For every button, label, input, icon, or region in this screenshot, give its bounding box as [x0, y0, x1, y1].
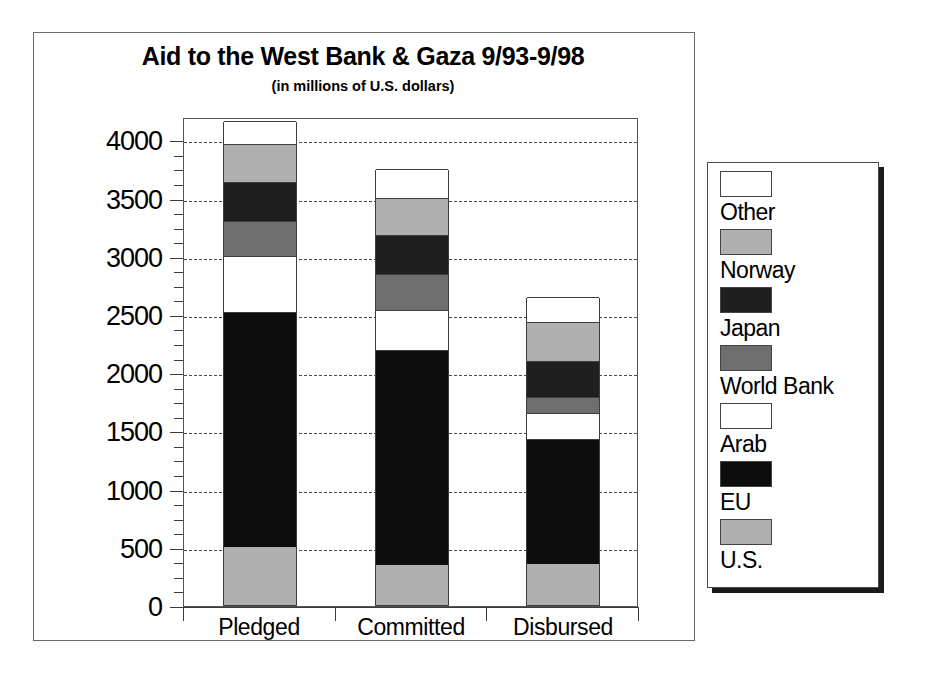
bar-segment: [376, 350, 448, 565]
legend-swatch: [720, 403, 772, 429]
y-axis: [170, 118, 183, 608]
chart-legend: OtherNorwayJapanWorld BankArabEUU.S.: [707, 162, 879, 588]
y-tick-minor: [174, 592, 183, 593]
y-tick-minor: [174, 243, 183, 244]
bar-segment: [527, 564, 599, 605]
bar-segment: [376, 274, 448, 310]
plot-area: [183, 118, 638, 607]
y-tick-label: 4000: [106, 128, 162, 155]
y-tick-minor: [174, 272, 183, 273]
bar-segment: [376, 235, 448, 274]
x-tick-label: Committed: [335, 614, 487, 654]
y-tick-minor: [174, 156, 183, 157]
y-tick-minor: [174, 287, 183, 288]
bar-segment: [527, 439, 599, 564]
x-tick-label: Disbursed: [487, 614, 639, 654]
y-tick-label: 3000: [106, 244, 162, 271]
y-tick-minor: [174, 170, 183, 171]
x-tick-label: Pledged: [183, 614, 335, 654]
chart-title: Aid to the West Bank & Gaza 9/93-9/98: [33, 42, 693, 71]
chart-page: Aid to the West Bank & Gaza 9/93-9/98 (i…: [0, 0, 927, 693]
y-tick-minor: [174, 214, 183, 215]
legend-label: EU: [720, 487, 870, 517]
bar-segment: [376, 169, 448, 198]
bar-segment: [527, 322, 599, 360]
bar-segment: [376, 310, 448, 350]
legend-swatch: [720, 345, 772, 371]
y-tick-minor: [174, 301, 183, 302]
bar-segment: [527, 397, 599, 413]
bar-pledged: [223, 122, 297, 606]
legend-swatch: [720, 519, 772, 545]
bar-segment: [376, 565, 448, 605]
y-tick-major: [170, 258, 183, 259]
y-tick-minor: [174, 534, 183, 535]
y-tick-major: [170, 374, 183, 375]
legend-label: Norway: [720, 255, 870, 285]
y-tick-minor: [174, 229, 183, 230]
legend-label: Japan: [720, 313, 870, 343]
y-tick-minor: [174, 505, 183, 506]
bar-segment: [527, 361, 599, 397]
bar-segment: [224, 312, 296, 547]
y-tick-major: [170, 607, 183, 608]
y-tick-label: 3500: [106, 186, 162, 213]
bar-segment: [224, 256, 296, 312]
y-tick-minor: [174, 403, 183, 404]
bar-segment: [224, 547, 296, 605]
y-tick-major: [170, 549, 183, 550]
y-tick-minor: [174, 563, 183, 564]
y-tick-label: 500: [120, 535, 162, 562]
y-tick-minor: [174, 389, 183, 390]
y-tick-major: [170, 200, 183, 201]
bar-segment: [527, 297, 599, 322]
y-tick-minor: [174, 447, 183, 448]
legend-item[interactable]: World Bank: [720, 345, 870, 401]
y-tick-label: 0: [148, 594, 162, 621]
y-tick-major: [170, 316, 183, 317]
y-tick-minor: [174, 345, 183, 346]
y-tick-minor: [174, 418, 183, 419]
y-tick-minor: [174, 578, 183, 579]
y-tick-minor: [174, 461, 183, 462]
legend-item[interactable]: Norway: [720, 229, 870, 285]
bar-segment: [376, 198, 448, 236]
bar-segment: [224, 144, 296, 182]
legend-swatch: [720, 171, 772, 197]
legend-label: U.S.: [720, 545, 870, 575]
y-tick-label: 2500: [106, 302, 162, 329]
chart-subtitle: (in millions of U.S. dollars): [33, 78, 693, 94]
y-tick-major: [170, 141, 183, 142]
y-tick-major: [170, 491, 183, 492]
legend-item[interactable]: Japan: [720, 287, 870, 343]
legend-label: World Bank: [720, 371, 870, 401]
y-tick-minor: [174, 520, 183, 521]
legend-swatch: [720, 229, 772, 255]
y-axis-labels: 05001000150020002500300035004000: [40, 118, 162, 608]
bar-committed: [375, 170, 449, 606]
legend-item[interactable]: Other: [720, 171, 870, 227]
y-tick-minor: [174, 330, 183, 331]
legend-swatch: [720, 461, 772, 487]
legend-item[interactable]: U.S.: [720, 519, 870, 575]
y-tick-major: [170, 432, 183, 433]
bar-segment: [224, 221, 296, 256]
bar-segment: [224, 182, 296, 220]
y-tick-minor: [174, 185, 183, 186]
legend-label: Other: [720, 197, 870, 227]
legend-item[interactable]: EU: [720, 461, 870, 517]
bar-disbursed: [526, 298, 600, 606]
bar-segment: [527, 413, 599, 439]
y-tick-label: 1500: [106, 419, 162, 446]
y-tick-label: 1000: [106, 477, 162, 504]
legend-label: Arab: [720, 429, 870, 459]
y-tick-minor: [174, 476, 183, 477]
y-tick-label: 2000: [106, 361, 162, 388]
legend-swatch: [720, 287, 772, 313]
x-axis-labels: PledgedCommittedDisbursed: [183, 614, 639, 654]
y-tick-minor: [174, 360, 183, 361]
legend-item[interactable]: Arab: [720, 403, 870, 459]
x-axis-line: [183, 607, 639, 608]
bar-segment: [224, 121, 296, 144]
